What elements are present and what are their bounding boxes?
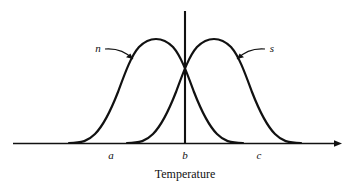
curve-label-n: n [95, 42, 101, 54]
x-tick-label-c: c [257, 149, 262, 161]
curve-label-s: s [270, 42, 274, 54]
curve-s [127, 39, 301, 143]
x-tick-label-a: a [108, 149, 114, 161]
x-axis-arrow-icon [334, 140, 342, 147]
x-tick-label-b: b [182, 149, 188, 161]
x-axis-title: Temperature [155, 167, 215, 181]
plot-canvas: n s a b c Temperature [0, 0, 350, 188]
distribution-figure: n s a b c Temperature [0, 0, 350, 188]
curve-n [69, 39, 243, 143]
